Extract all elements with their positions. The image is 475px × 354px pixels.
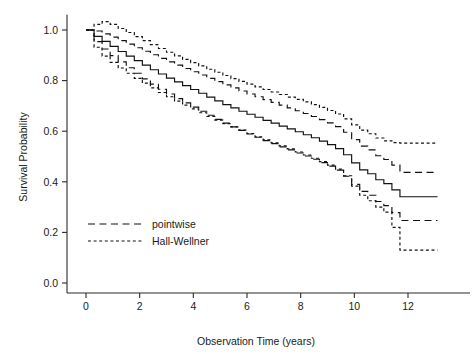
x-tick-label: 0 bbox=[83, 300, 89, 312]
x-tick-label: 12 bbox=[402, 300, 414, 312]
x-tick-label: 2 bbox=[137, 300, 143, 312]
y-axis-title: Survival Probability bbox=[17, 112, 29, 202]
curves-group bbox=[86, 22, 438, 250]
y-axis: 0.00.20.40.60.81.0 bbox=[43, 15, 67, 293]
y-tick-label: 0.2 bbox=[43, 226, 58, 238]
curve-hall_wellner_upper bbox=[86, 22, 438, 143]
curve-hall_wellner_lower bbox=[86, 30, 438, 250]
x-tick-label: 8 bbox=[298, 300, 304, 312]
x-tick-label: 6 bbox=[244, 300, 250, 312]
y-tick-label: 0.8 bbox=[43, 74, 58, 86]
y-tick-label: 0.4 bbox=[43, 176, 58, 188]
chart-legend: pointwiseHall-Wellner bbox=[88, 218, 209, 247]
x-tick-label: 4 bbox=[190, 300, 196, 312]
x-tick-label: 10 bbox=[348, 300, 360, 312]
legend-label-pointwise: pointwise bbox=[152, 218, 196, 230]
curve-pointwise_upper bbox=[86, 30, 438, 172]
y-tick-label: 1.0 bbox=[43, 24, 58, 36]
y-tick-label: 0.6 bbox=[43, 125, 58, 137]
survival-plot-figure: 0.00.20.40.60.81.0 024681012 pointwiseHa… bbox=[0, 0, 475, 354]
legend-label-hall_wellner: Hall-Wellner bbox=[152, 235, 209, 247]
x-axis-title: Observation Time (years) bbox=[197, 335, 315, 347]
x-axis: 024681012 bbox=[67, 293, 470, 312]
curve-estimate bbox=[86, 30, 438, 197]
y-tick-label: 0.0 bbox=[43, 277, 58, 289]
chart-canvas: 0.00.20.40.60.81.0 024681012 pointwiseHa… bbox=[0, 0, 475, 354]
curve-pointwise_lower bbox=[86, 30, 438, 221]
